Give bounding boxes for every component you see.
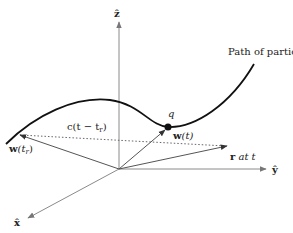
r-vector xyxy=(119,146,227,169)
w-tr-vector xyxy=(20,135,119,169)
x-axis xyxy=(28,169,119,218)
charge-particle xyxy=(165,124,172,131)
path-label: Path of particle xyxy=(228,46,293,57)
x-axis-label: x̂ xyxy=(14,217,21,228)
w-tr-label: w(tr) xyxy=(8,143,33,156)
separation-label: c(t − tr) xyxy=(67,121,107,134)
z-axis-label: ẑ xyxy=(114,8,120,19)
retarded-time-diagram: ẑ ŷ x̂ Path of particle c(t − tr) w(tr) … xyxy=(0,0,293,233)
w-t-label: w(t) xyxy=(172,130,194,141)
y-axis-label: ŷ xyxy=(271,164,279,175)
separation-line xyxy=(20,135,226,146)
particle-path-curve xyxy=(6,64,254,144)
r-label: r at t xyxy=(230,151,257,162)
w-t-vector xyxy=(119,130,165,169)
charge-label: q xyxy=(168,108,174,119)
